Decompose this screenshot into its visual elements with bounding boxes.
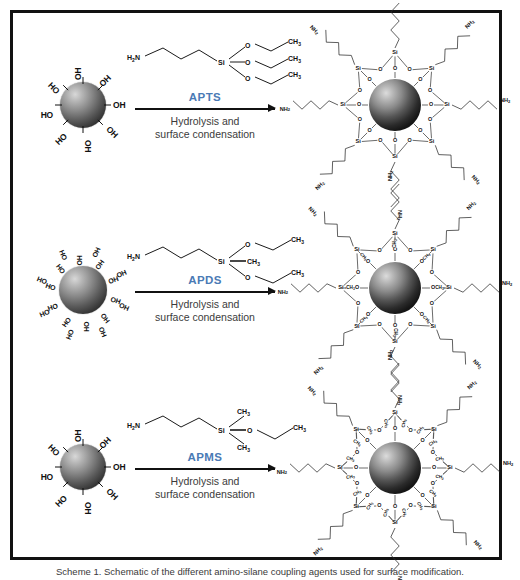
amine-terminal-label: NH2 bbox=[466, 378, 479, 391]
amine-head-label: H2N bbox=[127, 422, 140, 431]
methyl-label: CH3 bbox=[365, 501, 374, 511]
reaction-conditions: Hydrolysis and surface condensation bbox=[135, 115, 275, 140]
amine-terminal-label: NH2 bbox=[464, 17, 477, 30]
reactant-particle-apms: OHOHOHOHOHHOHOHO bbox=[43, 427, 123, 507]
oxygen-label: O bbox=[356, 269, 360, 275]
propyl-chain bbox=[318, 510, 353, 539]
product-particle-apms: NH2NH2NH2NH2NH2NH2NH2NH2OOSiOOSiOOSiOOSi… bbox=[295, 373, 500, 556]
silicon-label: Si bbox=[392, 49, 398, 55]
amine-terminal-label: NH2 bbox=[500, 97, 511, 104]
propyl-chain bbox=[324, 212, 353, 247]
propyl-chain bbox=[324, 391, 353, 426]
reaction-row-apts: OHOHOHOHOHHOHOHO H2N Si O O bbox=[13, 13, 505, 196]
hydroxyl-label: OH bbox=[98, 326, 108, 338]
condition-line-2: surface condensation bbox=[135, 488, 275, 501]
oxygen-label: O bbox=[407, 137, 411, 143]
product-structure-apts: NH2NH2NH2NH2NH2NH2NH2NH2OOSiOOSiOOSiOOSi… bbox=[295, 13, 500, 196]
silicon-label: Si bbox=[218, 59, 225, 66]
oxygen-label: O bbox=[365, 492, 369, 498]
amine-terminal-label: NH2 bbox=[472, 539, 485, 552]
oxygen-label: O bbox=[377, 427, 381, 433]
hydroxyl-label: HO bbox=[45, 282, 57, 292]
hydroxyl-label: HO bbox=[61, 316, 73, 328]
oxygen-label: O bbox=[429, 101, 433, 107]
reagent-label-apts: APTS bbox=[135, 91, 275, 103]
hydroxyl-label: HO bbox=[65, 329, 75, 341]
oxygen-label: O bbox=[408, 247, 412, 253]
oxygen-label: O bbox=[357, 101, 361, 107]
oxygen-label: O bbox=[367, 76, 371, 82]
oxygen-label: O bbox=[431, 480, 435, 486]
reaction-arrow-apts: APTS Hydrolysis and surface condensation bbox=[135, 91, 275, 140]
oxygen-label: O bbox=[355, 449, 359, 455]
oxygen-label: O bbox=[432, 464, 436, 470]
reagent-label-apds: APDS bbox=[135, 274, 275, 286]
methyl-label: CH3 bbox=[415, 425, 424, 435]
oxygen-label: O bbox=[409, 427, 413, 433]
condition-line-2: surface condensation bbox=[135, 311, 275, 324]
silicon-label: Si bbox=[218, 258, 225, 265]
hydroxyl-label-ring: OHOHOHOHOHHOHOHO bbox=[43, 427, 123, 507]
silicon-label: Si bbox=[392, 153, 398, 159]
oxygen-label: O bbox=[358, 116, 362, 122]
reagent-label-apms: APMS bbox=[135, 451, 275, 463]
reaction-conditions: Hydrolysis and surface condensation bbox=[135, 475, 275, 500]
propyl-chain bbox=[290, 464, 335, 472]
silicon-label: Si bbox=[431, 426, 437, 432]
oxygen-label: O bbox=[418, 127, 422, 133]
amine-terminal-label: NH2 bbox=[307, 206, 320, 219]
amine-head-label: H2N bbox=[127, 54, 140, 63]
product-particle-apts: NH2NH2NH2NH2NH2NH2NH2NH2OOSiOOSiOOSiOOSi… bbox=[295, 13, 500, 196]
reactant-particle-apds: OHOHOHOHOHOHHOHOHOHOOHOHOHOHHOHOHOHO bbox=[35, 242, 131, 338]
propyl-chain bbox=[435, 36, 470, 65]
oxygen-label: O bbox=[431, 449, 435, 455]
oxygen-label: O bbox=[420, 437, 424, 443]
oxygen-label: O bbox=[393, 425, 397, 431]
hydroxyl-label: HO bbox=[39, 308, 51, 318]
silicon-label: Si bbox=[356, 65, 362, 71]
condition-line-1: Hydrolysis and bbox=[135, 475, 275, 488]
methyl-label: CH3 bbox=[352, 438, 362, 447]
amine-terminal-label: NH2 bbox=[502, 280, 513, 287]
condition-line-1: Hydrolysis and bbox=[135, 115, 275, 128]
oxygen-label: O bbox=[430, 300, 434, 306]
oxygen-label: O bbox=[356, 300, 360, 306]
nanoparticle-sphere bbox=[369, 442, 421, 494]
oxygen-label: O bbox=[408, 321, 412, 327]
propyl-chain bbox=[293, 101, 338, 109]
amine-terminal-label: NH2 bbox=[470, 174, 483, 187]
silicon-label: Si bbox=[356, 138, 362, 144]
methyl-label: CH3 bbox=[247, 258, 260, 267]
silicon-label: Si bbox=[354, 246, 360, 252]
arrow-line bbox=[135, 104, 275, 113]
amine-terminal-label: NH2 bbox=[387, 349, 394, 360]
methyl-label: CH3 bbox=[435, 285, 444, 291]
propyl-chain bbox=[291, 284, 336, 292]
propyl-chain bbox=[454, 284, 499, 292]
oxygen-label: O bbox=[367, 127, 371, 133]
product-particle-apds: NH2NH2NH2NH2NH2NH2NH2NH2OOSiOOSiOOSiOOSi… bbox=[295, 196, 500, 379]
amine-terminal-label: NH2 bbox=[308, 24, 321, 37]
propyl-chain bbox=[391, 3, 399, 48]
oxygen-label: O bbox=[428, 87, 432, 93]
propyl-chain bbox=[319, 330, 354, 359]
silicon-label: Si bbox=[218, 427, 225, 434]
propyl-chain bbox=[437, 510, 466, 545]
oxygen-label: O bbox=[420, 492, 424, 498]
oxygen-label: O bbox=[366, 311, 370, 317]
figure-frame: OHOHOHOHOHHOHOHO H2N Si O O bbox=[10, 10, 502, 560]
hydroxyl-label: OH bbox=[99, 312, 111, 324]
oxygen-label: O bbox=[355, 480, 359, 486]
methyl-label: CH3 bbox=[237, 408, 250, 417]
oxygen-label: O bbox=[355, 284, 359, 290]
amine-terminal-label: NH2 bbox=[278, 289, 289, 296]
propyl-chain bbox=[326, 30, 355, 65]
oxygen-label: O bbox=[409, 502, 413, 508]
oxygen-label: O bbox=[358, 87, 362, 93]
condition-line-2: surface condensation bbox=[135, 128, 275, 141]
amine-terminal-label: NH2 bbox=[312, 544, 325, 557]
silicon-label: Si bbox=[446, 284, 452, 290]
oxygen-label: O bbox=[247, 427, 253, 434]
product-structure-apms: NH2NH2NH2NH2NH2NH2NH2NH2OOSiOOSiOOSiOOSi… bbox=[295, 373, 500, 556]
hydroxyl-bond-ticks bbox=[43, 65, 123, 145]
